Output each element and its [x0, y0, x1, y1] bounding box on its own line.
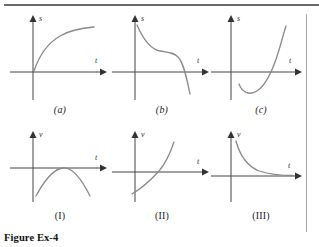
- figure-page: s t (a) s t (b): [0, 0, 319, 247]
- t-axis-arrowhead: [100, 165, 107, 172]
- graph-b-axes: [112, 15, 209, 100]
- v-axis-label: v: [141, 130, 145, 139]
- s-axis-label: s: [39, 14, 42, 23]
- v-axis-label: v: [39, 130, 43, 139]
- curve-III: [236, 141, 293, 176]
- panel-label-c: (c): [209, 104, 313, 115]
- s-axis-label: s: [141, 14, 144, 23]
- t-axis-arrowhead: [295, 173, 302, 180]
- graph-I-svg: v t: [8, 128, 112, 208]
- graph-panel-III: v t (III): [209, 128, 313, 228]
- t-axis-label: t: [289, 56, 292, 65]
- figure-caption: Figure Ex-4: [4, 232, 58, 243]
- graph-panel-I: v t (I): [8, 128, 112, 228]
- v-axis-arrowhead: [132, 131, 139, 138]
- graph-II-axes: [112, 131, 209, 202]
- s-axis-label: s: [237, 14, 240, 23]
- panel-label-b: (b): [110, 104, 214, 115]
- curve-I: [36, 168, 90, 196]
- t-axis-arrowhead: [202, 69, 209, 76]
- t-axis-arrowhead: [295, 69, 302, 76]
- v-axis-arrowhead: [30, 131, 37, 138]
- t-axis-label: t: [197, 157, 200, 166]
- graph-II-svg: v t: [110, 128, 214, 208]
- graph-panel-b: s t (b): [110, 12, 214, 112]
- curve-c: [239, 26, 286, 93]
- graph-III-svg: v t: [209, 128, 313, 208]
- curve-a: [34, 27, 94, 71]
- curve-II: [132, 142, 174, 194]
- t-axis-label: t: [197, 56, 200, 65]
- t-axis-label: t: [95, 56, 98, 65]
- t-axis-arrowhead: [100, 69, 107, 76]
- s-axis-arrowhead: [30, 15, 37, 22]
- graph-panel-II: v t (II): [110, 128, 214, 228]
- s-axis-arrowhead: [132, 15, 139, 22]
- s-axis-arrowhead: [228, 15, 235, 22]
- panel-label-I: (I): [8, 210, 112, 221]
- t-axis-label: t: [288, 161, 291, 170]
- top-horizontal-rule: [4, 4, 319, 6]
- curve-b: [137, 25, 190, 94]
- v-axis-arrowhead: [228, 131, 235, 138]
- panel-label-II: (II): [110, 210, 214, 221]
- graph-I-axes: [10, 131, 107, 202]
- graph-panel-c: s t (c): [209, 12, 313, 112]
- graph-c-svg: s t: [209, 12, 313, 104]
- t-axis-arrowhead: [202, 169, 209, 176]
- graph-panel-a: s t (a): [8, 12, 112, 112]
- panel-label-a: (a): [8, 104, 112, 115]
- panel-label-III: (III): [209, 210, 313, 221]
- graph-b-svg: s t: [110, 12, 214, 104]
- graph-a-svg: s t: [8, 12, 112, 104]
- t-axis-label: t: [95, 153, 98, 162]
- v-axis-label: v: [237, 130, 241, 139]
